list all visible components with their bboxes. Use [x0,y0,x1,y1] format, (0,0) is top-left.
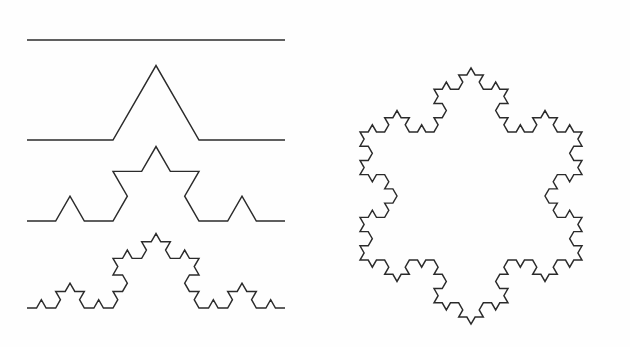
koch-figure [0,0,630,347]
figure-background [0,0,630,347]
koch-figure-svg [0,0,630,347]
